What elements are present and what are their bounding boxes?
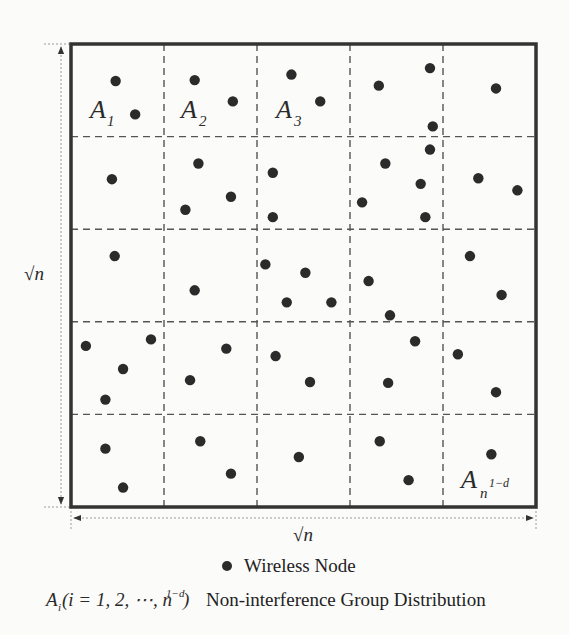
wireless-node [282,297,292,307]
legend-node-icon [222,561,232,571]
legend-group-symbol-range: (i = 1, 2, ⋯, n [62,589,172,611]
cell-label-an: A n 1−d [459,465,510,501]
cell-label-a2: A 2 [179,95,207,129]
wireless-node [473,173,483,183]
wireless-node [415,179,425,189]
wireless-node [453,349,463,359]
wireless-node [403,475,413,485]
wireless-node [260,259,270,269]
legend-group-symbol-close: ) [182,589,189,611]
wireless-node [294,452,304,462]
wireless-node [363,276,373,286]
wireless-node [189,285,199,295]
wireless-nodes [81,63,523,493]
wireless-node [425,63,435,73]
wireless-node [286,69,296,79]
wireless-node [315,96,325,106]
legend-node-label: Wireless Node [244,555,356,576]
cell-label-a3-sub: 3 [293,113,302,129]
wireless-node [189,75,199,85]
wireless-node [491,387,501,397]
wireless-node [110,76,120,86]
wireless-node [226,468,236,478]
wireless-node [146,334,156,344]
side-length-label-horizontal: √n [293,524,313,545]
cell-label-an-sub: n [480,485,488,501]
wireless-node [305,377,315,387]
wireless-node [428,121,438,131]
legend-group-symbol-sub: i [58,601,61,613]
wireless-node [185,375,195,385]
wireless-node [420,212,430,222]
wireless-node [486,449,496,459]
wireless-node [385,310,395,320]
cell-label-a1-base: A [88,95,106,124]
wireless-node [130,109,140,119]
wireless-node [270,351,280,361]
wireless-node [380,158,390,168]
wireless-node [193,158,203,168]
wireless-node [118,364,128,374]
wireless-node [100,443,110,453]
cell-label-a1-sub: 1 [107,113,115,129]
wireless-node [268,168,278,178]
wireless-node [195,436,205,446]
wireless-node [491,83,501,93]
wireless-node [410,336,420,346]
cell-label-a1: A 1 [88,95,115,129]
wireless-node [110,251,120,261]
cell-label-a2-sub: 2 [199,113,207,129]
legend: Wireless Node A i (i = 1, 2, ⋯, n 1−d ) … [44,555,486,613]
wireless-node [81,341,91,351]
wireless-node [375,436,385,446]
wireless-node [107,174,117,184]
cell-label-a3-base: A [274,95,292,124]
wireless-node [228,96,238,106]
wireless-node [118,482,128,492]
legend-group-label: Non-interference Group Distribution [206,589,486,610]
cell-label-a2-base: A [179,95,197,124]
side-length-label-vertical: √n [24,263,44,284]
cell-label-an-sup: 1−d [489,476,510,490]
wireless-node [374,80,384,90]
wireless-node [226,192,236,202]
wireless-node [221,343,231,353]
legend-group-symbol-base: A [44,589,58,610]
wireless-node [357,197,367,207]
wireless-node [268,212,278,222]
wireless-node [496,290,506,300]
wireless-node [100,394,110,404]
cell-label-a3: A 3 [274,95,302,129]
sqrt-n-label-left: √n [24,263,44,284]
sqrt-n-label-bottom: √n [293,524,313,545]
wireless-node [425,144,435,154]
wireless-node [465,251,475,261]
wireless-node [300,268,310,278]
wireless-node [383,378,393,388]
wireless-node [180,205,190,215]
network-grid-diagram: √n √n A 1 A 2 A 3 A n 1−d Wireless Node … [0,0,569,635]
cell-label-an-base: A [459,465,477,494]
wireless-node [512,185,522,195]
wireless-node [326,297,336,307]
